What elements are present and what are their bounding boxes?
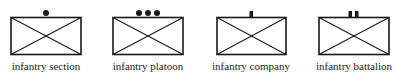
symbol-label: infantry section bbox=[0, 60, 96, 72]
symbol-label: infantry battalion bbox=[304, 60, 399, 72]
symbol-infantry-section: infantry section bbox=[0, 0, 100, 78]
symbol-infantry-battalion: infantry battalion bbox=[300, 0, 399, 78]
symbol-infantry-platoon: infantry platoon bbox=[100, 0, 200, 78]
symbol-label: infantry company bbox=[201, 60, 301, 72]
infantry-section-icon bbox=[0, 0, 100, 60]
symbol-label: infantry platoon bbox=[98, 60, 198, 72]
infantry-company-icon bbox=[200, 0, 300, 60]
symbol-infantry-company: infantry company bbox=[200, 0, 300, 78]
infantry-battalion-icon bbox=[300, 0, 399, 60]
infantry-platoon-icon bbox=[100, 0, 200, 60]
